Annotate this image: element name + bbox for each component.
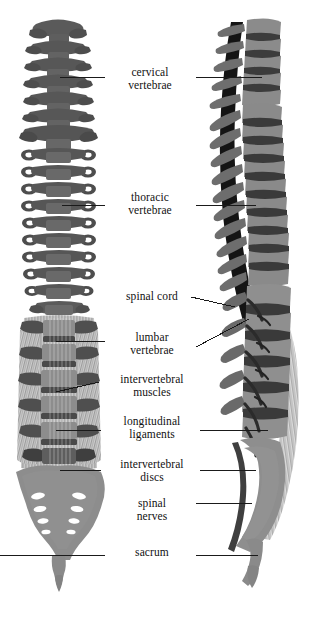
label-longitudinal-ligaments: longitudinal ligaments	[104, 415, 200, 441]
lumbar-vertebrae-anterior	[17, 315, 101, 472]
label-sacrum: sacrum	[112, 546, 192, 559]
label-spinal-cord: spinal cord	[112, 290, 192, 303]
spine-illustration	[0, 0, 317, 641]
label-lumbar-vertebrae: lumbar vertebrae	[110, 331, 194, 357]
thoracolumbar-junction-anterior	[29, 301, 90, 315]
spine-anatomy-figure: cervical vertebrae thoracic vertebrae sp…	[0, 0, 317, 641]
label-intervertebral-muscles: intervertebral muscles	[104, 373, 200, 399]
label-cervical-vertebrae: cervical vertebrae	[108, 66, 192, 92]
cervical-vertebrae-anterior	[22, 41, 95, 129]
label-intervertebral-discs: intervertebral discs	[104, 458, 200, 484]
label-spinal-nerves: spinal nerves	[112, 497, 192, 523]
label-thoracic-vertebrae: thoracic vertebrae	[108, 191, 192, 217]
